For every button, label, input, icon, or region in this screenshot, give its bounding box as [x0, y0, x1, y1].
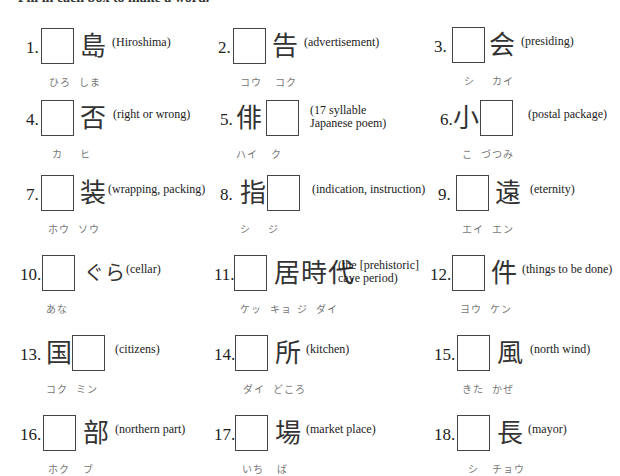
item-3: 3. 会 (presiding) シ カイ	[0, 27, 620, 87]
item-number: 3.	[434, 37, 447, 57]
reading: エイ エン	[462, 221, 514, 236]
reading: きた かぜ	[462, 381, 514, 396]
answer-box[interactable]	[457, 415, 490, 451]
item-number: 9.	[438, 185, 451, 205]
reading: ヨウ ケン	[460, 301, 512, 316]
reading: こ づつみ	[462, 146, 514, 161]
meaning: (postal package)	[528, 108, 607, 121]
item-number: 18.	[434, 425, 455, 445]
kanji-after: 風	[497, 338, 524, 368]
kanji-after: 会	[489, 30, 516, 60]
item-number: 12.	[430, 265, 451, 285]
kanji-after: 件	[491, 258, 518, 288]
item-9: 9. 遠 (eternity) エイ エン	[0, 175, 620, 235]
reading: シ チョウ	[468, 461, 525, 476]
meaning: (presiding)	[521, 35, 574, 48]
kanji-after: 長	[497, 418, 524, 448]
answer-box[interactable]	[456, 175, 489, 211]
item-18: 18. 長 (mayor) シ チョウ	[0, 415, 620, 475]
meaning: (eternity)	[530, 183, 575, 196]
item-number: 15.	[434, 345, 455, 365]
answer-box[interactable]	[457, 335, 490, 371]
answer-box[interactable]	[452, 27, 485, 63]
meaning: (mayor)	[528, 423, 567, 436]
instruction-text: Fill in each box to make a word.	[18, 0, 209, 6]
answer-box[interactable]	[452, 255, 485, 291]
meaning: (north wind)	[530, 343, 590, 356]
kanji-after: 遠	[495, 178, 522, 208]
reading: シ カイ	[464, 73, 514, 88]
kanji-before: 小	[453, 103, 480, 133]
item-6: 6. 小 (postal package) こ づつみ	[0, 100, 620, 160]
answer-box[interactable]	[480, 100, 513, 136]
item-12: 12. 件 (things to be done) ヨウ ケン	[0, 255, 620, 315]
item-15: 15. 風 (north wind) きた かぜ	[0, 335, 620, 395]
meaning: (things to be done)	[522, 263, 612, 276]
item-number: 6.	[440, 110, 453, 130]
